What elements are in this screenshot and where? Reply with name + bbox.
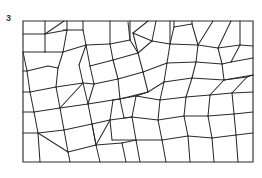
figure-container: 3 (0, 0, 262, 178)
tessellation-diagram (0, 0, 262, 178)
diagram-background (23, 21, 253, 162)
